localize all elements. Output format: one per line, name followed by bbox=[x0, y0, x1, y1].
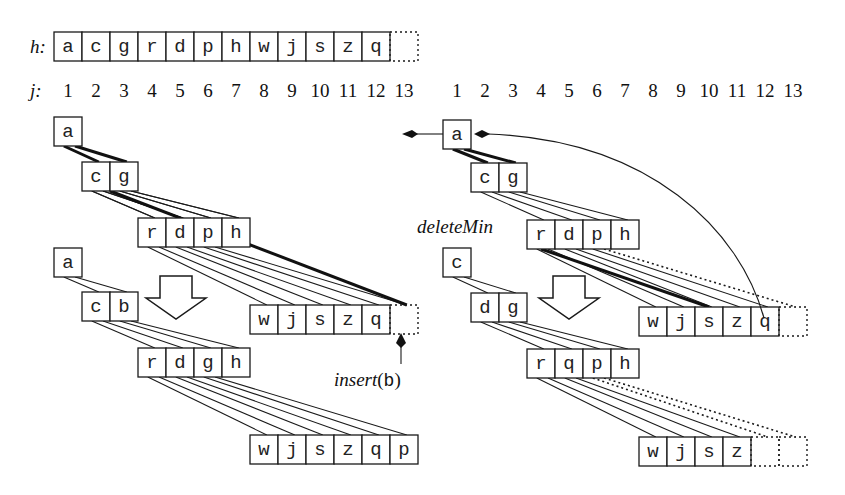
index-number: 7 bbox=[620, 80, 630, 101]
heap-cell-value: p bbox=[202, 222, 213, 244]
heap-cell-value: g bbox=[118, 36, 129, 58]
heap-cell: r bbox=[138, 32, 166, 61]
index-number: 13 bbox=[784, 80, 803, 101]
index-number: 9 bbox=[287, 80, 297, 101]
heap-cell-value: d bbox=[174, 352, 185, 374]
index-number: 7 bbox=[231, 80, 241, 101]
heap-cell: w bbox=[250, 32, 278, 61]
heap-cell-value: p bbox=[591, 353, 602, 375]
heap-cell: g bbox=[499, 293, 527, 322]
heap-cell: r bbox=[527, 349, 555, 378]
heap-cell-value: g bbox=[118, 166, 129, 188]
heap-cell: q bbox=[751, 307, 779, 336]
heap-cell: q bbox=[362, 435, 390, 464]
heap-cell: g bbox=[110, 162, 138, 191]
heap-cell-value: d bbox=[174, 36, 185, 58]
heap-cell-value: c bbox=[90, 296, 101, 318]
heap-cell-value: r bbox=[535, 353, 546, 375]
heap-cell: p bbox=[583, 349, 611, 378]
heap-cell: j bbox=[278, 435, 306, 464]
heap-cell: a bbox=[443, 120, 471, 149]
heap-cell: s bbox=[306, 435, 334, 464]
heap-cell: h bbox=[611, 349, 639, 378]
heap-cell: c bbox=[471, 163, 499, 192]
index-number: 4 bbox=[536, 80, 546, 101]
heap-cell-value: j bbox=[286, 439, 297, 461]
heap-cell: a bbox=[54, 248, 82, 277]
heap-cell-value: j bbox=[286, 36, 297, 58]
heap-cell: a bbox=[54, 117, 82, 146]
heap-cell: r bbox=[138, 348, 166, 377]
heap-cell: p bbox=[390, 435, 418, 464]
heap-cell: g bbox=[194, 348, 222, 377]
heap-cell-value: h bbox=[230, 222, 241, 244]
heap-cell: j bbox=[278, 305, 306, 334]
heap-cell-value: j bbox=[675, 311, 686, 333]
heap-cell: c bbox=[82, 32, 110, 61]
heap-cell-value: z bbox=[731, 311, 742, 333]
index-number: 10 bbox=[311, 80, 330, 101]
heap-cell-value: b bbox=[118, 296, 129, 318]
heap-cell: j bbox=[667, 307, 695, 336]
heap-cell-value: r bbox=[146, 222, 157, 244]
heap-cell-value: a bbox=[451, 124, 462, 146]
heap-cell-value: h bbox=[619, 224, 630, 246]
heap-cell: j bbox=[667, 437, 695, 466]
index-number: 6 bbox=[203, 80, 213, 101]
moved-element-arrowhead-icon bbox=[474, 130, 490, 138]
heap-cell: z bbox=[723, 307, 751, 336]
heap-cell-value: q bbox=[759, 311, 770, 333]
heap-cell: w bbox=[639, 307, 667, 336]
heap-cell-value: c bbox=[90, 166, 101, 188]
index-number: 11 bbox=[339, 80, 357, 101]
heap-cell-value: s bbox=[314, 36, 325, 58]
heap-cell: r bbox=[138, 218, 166, 247]
removed-min-arrowhead-icon bbox=[402, 130, 418, 138]
index-number: 2 bbox=[91, 80, 101, 101]
index-number: 12 bbox=[756, 80, 775, 101]
heap-cell: c bbox=[82, 292, 110, 321]
heap-cell-value: h bbox=[619, 353, 630, 375]
heap-cell-value: s bbox=[314, 309, 325, 331]
heap-cell-value: w bbox=[647, 441, 659, 463]
heap-cell: z bbox=[723, 437, 751, 466]
heap-cell-value: z bbox=[342, 439, 353, 461]
heap-cell-value: w bbox=[258, 36, 270, 58]
heap-cell: s bbox=[695, 437, 723, 466]
heap-cell: z bbox=[334, 435, 362, 464]
heap-cell: p bbox=[194, 218, 222, 247]
heap-cell-value: q bbox=[370, 309, 381, 331]
index-number: 11 bbox=[728, 80, 746, 101]
heap-cell-value: a bbox=[62, 252, 73, 274]
heap-cell: z bbox=[334, 32, 362, 61]
heap-cell-value: d bbox=[563, 224, 574, 246]
heap-cell-value: c bbox=[90, 36, 101, 58]
heap-cell-value: q bbox=[370, 439, 381, 461]
heap-cell-value: j bbox=[286, 309, 297, 331]
heap-cell: q bbox=[362, 32, 390, 61]
heap-cell-value: g bbox=[507, 167, 518, 189]
heap-cell: p bbox=[583, 220, 611, 249]
index-number: 1 bbox=[63, 80, 73, 101]
heap-cell: d bbox=[166, 218, 194, 247]
heap-cell: s bbox=[306, 32, 334, 61]
heap-cell-value: z bbox=[731, 441, 742, 463]
heap-cell-value: w bbox=[258, 309, 270, 331]
heap-cell-value: p bbox=[202, 36, 213, 58]
index-number: 12 bbox=[367, 80, 386, 101]
heap-cell: c bbox=[82, 162, 110, 191]
empty-heap-slot bbox=[779, 437, 807, 466]
heap-cell-value: g bbox=[202, 352, 213, 374]
heap-cell: h bbox=[611, 220, 639, 249]
heap-cell-value: h bbox=[230, 352, 241, 374]
heap-cell-value: r bbox=[146, 352, 157, 374]
insert-arrowhead-icon bbox=[396, 333, 406, 348]
right-heap-after-deletemin: cdgrqphwjsz bbox=[443, 248, 807, 466]
heap-cell: s bbox=[695, 307, 723, 336]
empty-heap-slot bbox=[751, 437, 779, 466]
heap-array-label: h: bbox=[30, 36, 46, 57]
heap-cell-value: r bbox=[535, 224, 546, 246]
index-number: 8 bbox=[648, 80, 658, 101]
index-number: 9 bbox=[676, 80, 686, 101]
heap-cell-value: p bbox=[591, 224, 602, 246]
